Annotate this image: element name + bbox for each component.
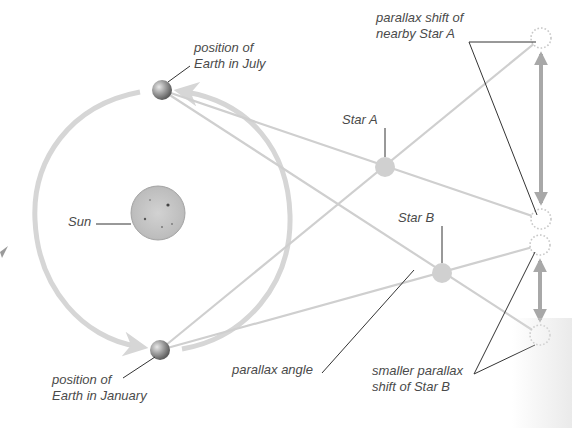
label-parallax-angle: parallax angle [232,362,313,378]
label-parallax-shift-star-a: parallax shift of nearby Star A [376,10,463,42]
label-star-a: Star A [342,112,378,128]
star-a-icon [375,157,395,177]
apparent-star-a-bottom-icon [531,209,551,229]
sightline-july-star-a [162,90,541,219]
star-b-icon [432,263,452,283]
earth-january-icon [150,340,170,360]
parallax-diagram: position of Earth in July position of Ea… [0,0,572,428]
label-parallax-shift-star-b: smaller parallax shift of Star B [372,363,463,395]
left-edge-arrow-fragment [0,246,8,258]
earth-july-icon [152,80,172,100]
label-earth-january: position of Earth in January [52,372,147,404]
sight-lines [160,38,541,350]
label-star-b: Star B [398,210,434,226]
label-sun: Sun [68,214,91,230]
apparent-star-a-top-icon [531,28,551,48]
leader-earth-july [168,66,190,82]
label-earth-july: position of Earth in July [194,40,266,72]
sun-icon [131,186,185,240]
leader-parallax-angle [322,270,414,373]
apparent-star-b-top-icon [530,235,550,255]
sightline-january-star-a [160,38,541,350]
page-edge-shadow [512,318,572,428]
